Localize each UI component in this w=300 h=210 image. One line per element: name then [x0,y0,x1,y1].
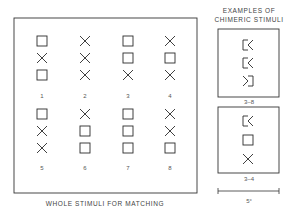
x-icon [165,36,175,46]
x-icon [123,70,133,80]
x-icon [165,70,175,80]
x-icon [37,143,47,153]
square-icon [37,70,47,80]
whole-stimuli-grid: 12345678 [37,36,175,171]
square-icon [80,126,90,136]
x-icon [243,154,253,164]
x-icon [80,36,90,46]
stimulus-label: 5 [40,165,44,171]
square-icon [123,126,133,136]
x-icon [165,126,175,136]
square-icon [123,36,133,46]
whole-stimulus-3: 3 [123,36,133,99]
scale-bar [218,188,279,194]
whole-stimulus-1: 1 [37,36,47,99]
whole-stimulus-6: 6 [80,109,90,171]
stimulus-label: 7 [126,165,130,171]
whole-stimulus-8: 8 [165,109,175,171]
x-icon [80,53,90,63]
square-icon [123,53,133,63]
chimeric-example-label-1: 3–8 [244,99,255,105]
stimulus-label: 6 [83,165,87,171]
whole-stimulus-2: 2 [80,36,90,99]
x-icon [80,70,90,80]
chimeric-stimulus-3–4 [243,116,253,164]
left-square-right-x-icon [243,40,253,50]
square-icon [37,36,47,46]
stimulus-label: 4 [168,93,172,99]
square-icon [243,135,253,145]
chimeric-title-line2: CHIMERIC STIMULI [214,16,283,23]
left-square-right-x-icon [243,58,253,68]
square-icon [165,53,175,63]
whole-stimulus-5: 5 [37,109,47,171]
square-icon [123,143,133,153]
x-icon [37,126,47,136]
whole-stimulus-7: 7 [123,109,133,171]
chimeric-title-line1: EXAMPLES OF [223,7,275,14]
x-icon [165,109,175,119]
stimulus-label: 8 [168,165,172,171]
stimuli-diagram: 12345678 WHOLE STIMULI FOR MATCHING EXAM… [0,0,300,210]
x-icon [80,109,90,119]
chimeric-stimulus-3–8 [243,40,253,86]
main-caption: WHOLE STIMULI FOR MATCHING [46,200,164,207]
left-square-right-x-icon [243,116,253,126]
square-icon [123,109,133,119]
square-icon [37,109,47,119]
left-x-right-square-icon [243,76,253,86]
chimeric-example-frame-2 [218,107,279,173]
square-icon [80,143,90,153]
x-icon [37,53,47,63]
scale-bar-label: 5° [246,198,252,204]
chimeric-example-label-2: 3–4 [244,176,255,182]
square-icon [165,143,175,153]
stimulus-label: 1 [40,93,44,99]
stimulus-label: 2 [83,93,87,99]
whole-stimulus-4: 4 [165,36,175,99]
stimulus-label: 3 [126,93,130,99]
